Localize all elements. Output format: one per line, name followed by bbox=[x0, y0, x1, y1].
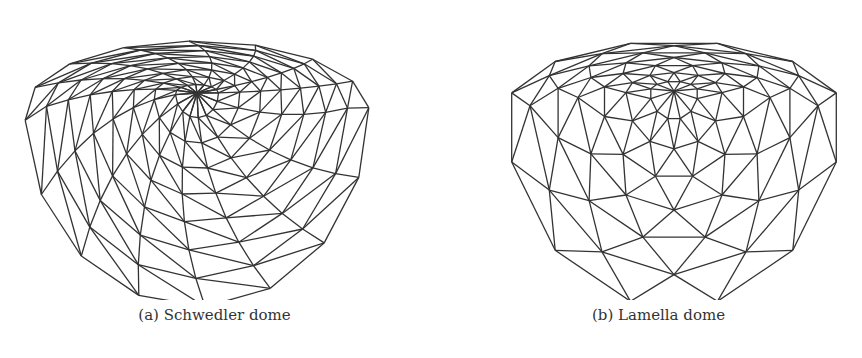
dome-member bbox=[626, 63, 655, 66]
dome-member bbox=[90, 227, 139, 265]
dome-member bbox=[190, 116, 198, 117]
dome-member bbox=[304, 64, 319, 86]
dome-member bbox=[204, 85, 211, 87]
dome-member bbox=[41, 195, 81, 257]
dome-member bbox=[304, 86, 319, 114]
dome-member bbox=[291, 160, 313, 168]
dome-member bbox=[336, 174, 359, 178]
dome-member bbox=[226, 213, 282, 218]
dome-member bbox=[243, 62, 249, 68]
dome-member bbox=[260, 112, 282, 114]
dome-member bbox=[254, 50, 256, 56]
dome-member bbox=[250, 138, 270, 150]
dome-member bbox=[693, 141, 698, 176]
dome-member bbox=[185, 116, 190, 141]
dome-member bbox=[605, 93, 627, 117]
dome-member bbox=[183, 112, 185, 142]
dome-member bbox=[113, 176, 141, 235]
dome-member bbox=[337, 84, 348, 108]
dome-member bbox=[605, 87, 627, 93]
dome-member bbox=[326, 108, 348, 112]
dome-member bbox=[680, 82, 691, 85]
dome-member bbox=[130, 66, 147, 69]
dome-member bbox=[159, 118, 170, 133]
dome-member bbox=[219, 92, 240, 93]
dome-member bbox=[282, 168, 313, 214]
dome-member bbox=[716, 117, 744, 121]
dome-member bbox=[184, 218, 226, 222]
dome-member bbox=[197, 93, 213, 110]
dome-member bbox=[626, 89, 651, 93]
dome-member bbox=[674, 119, 680, 149]
dome-member bbox=[47, 106, 58, 171]
dome-member bbox=[182, 167, 215, 193]
dome-member bbox=[182, 194, 226, 218]
dome-member bbox=[605, 117, 624, 155]
dome-member bbox=[113, 154, 127, 176]
dome-member bbox=[216, 193, 264, 196]
dome-member bbox=[124, 79, 144, 81]
dome-member bbox=[281, 90, 282, 114]
dome-member bbox=[139, 295, 205, 300]
dome-member bbox=[304, 59, 313, 64]
dome-member bbox=[716, 83, 722, 93]
dome-member bbox=[235, 86, 240, 93]
dome-member bbox=[254, 243, 325, 266]
dome-member bbox=[668, 73, 674, 82]
dome-member bbox=[294, 64, 304, 69]
dome-member bbox=[68, 100, 75, 151]
dome-member bbox=[770, 88, 790, 97]
dome-member bbox=[725, 154, 757, 155]
dome-member bbox=[25, 120, 41, 194]
dome-member bbox=[512, 93, 530, 106]
dome-member bbox=[270, 150, 291, 160]
dome-member bbox=[113, 119, 114, 176]
dome-member bbox=[650, 141, 674, 149]
dome-member bbox=[818, 106, 836, 162]
dome-member bbox=[725, 117, 744, 155]
dome-member bbox=[81, 256, 139, 295]
figure-panel-schwedler: (a) Schwedler dome bbox=[0, 0, 431, 358]
dome-member bbox=[716, 74, 725, 83]
dome-member bbox=[549, 76, 558, 89]
dome-member bbox=[103, 69, 147, 79]
dome-member bbox=[790, 138, 799, 191]
dome-member bbox=[182, 167, 207, 168]
dome-member bbox=[247, 178, 264, 197]
dome-member bbox=[691, 99, 697, 112]
dome-member bbox=[698, 121, 716, 142]
dome-member bbox=[304, 112, 326, 114]
dome-member bbox=[90, 200, 100, 227]
dome-member bbox=[196, 278, 205, 300]
dome-member bbox=[643, 53, 674, 58]
dome-member bbox=[282, 88, 301, 114]
dome-member bbox=[697, 93, 722, 99]
dome-member bbox=[261, 90, 281, 91]
dome-member bbox=[589, 66, 591, 78]
dome-member bbox=[94, 133, 113, 176]
dome-member bbox=[353, 81, 369, 108]
dome-member bbox=[208, 158, 232, 168]
dome-member bbox=[591, 117, 605, 154]
dome-member bbox=[757, 138, 790, 154]
dome-member bbox=[303, 174, 336, 229]
dome-member bbox=[650, 73, 674, 76]
dome-member bbox=[133, 100, 154, 108]
dome-member bbox=[252, 82, 261, 92]
dome-member bbox=[674, 210, 705, 237]
dome-member bbox=[231, 125, 250, 139]
dome-member bbox=[623, 66, 655, 74]
dome-member bbox=[213, 101, 217, 109]
dome-member bbox=[722, 154, 757, 195]
dome-member bbox=[100, 200, 138, 264]
dome-member bbox=[591, 154, 626, 195]
dome-member bbox=[319, 84, 337, 86]
lamella-dome-wireframe bbox=[431, 0, 862, 300]
dome-member bbox=[145, 180, 151, 207]
dome-member bbox=[113, 119, 127, 154]
dome-member bbox=[100, 176, 112, 201]
dome-member bbox=[224, 74, 235, 80]
dome-member bbox=[722, 93, 744, 117]
dome-member bbox=[651, 84, 657, 89]
dome-member bbox=[216, 178, 247, 193]
